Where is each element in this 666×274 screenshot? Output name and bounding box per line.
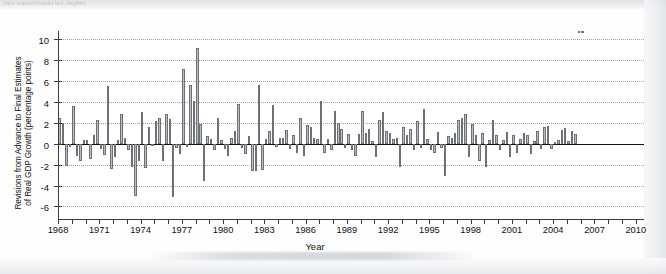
bar (230, 138, 232, 144)
bar (237, 104, 239, 144)
bar (523, 133, 525, 143)
bar (189, 85, 191, 143)
x-axis-tick (319, 220, 320, 224)
x-axis-tick (443, 220, 444, 224)
y-axis-label-line-2: of Real GDP Growth (percentage points) (24, 35, 34, 231)
bar (261, 144, 263, 170)
x-axis-tick (347, 220, 348, 224)
x-axis-tick (457, 220, 458, 224)
bar (574, 134, 576, 143)
bar (371, 141, 373, 144)
bar (564, 128, 566, 144)
y-axis-tick: -6 (54, 206, 62, 207)
bar (306, 125, 308, 144)
bar (120, 114, 122, 144)
bar (162, 144, 164, 161)
bar (444, 144, 446, 176)
scan-header-text: (faint scanned header text, illegible) (3, 0, 303, 7)
x-axis-tick (581, 220, 582, 224)
bar (275, 144, 277, 147)
plot-area: 1086420-2-4-6 (58, 31, 644, 219)
x-axis-tick (526, 220, 527, 224)
y-axis-tick: 0 (54, 144, 62, 145)
x-axis-tick-label: 1995 (419, 225, 440, 235)
bar (354, 144, 356, 157)
x-axis-tick-label: 1983 (254, 225, 275, 235)
bar (96, 120, 98, 144)
bar (203, 144, 205, 182)
bar (248, 136, 250, 143)
x-axis-tick-label: 2004 (543, 225, 564, 235)
x-axis-tick (251, 220, 252, 224)
bar (220, 140, 222, 144)
bar (131, 144, 133, 167)
bar (127, 144, 129, 150)
x-axis-tick (539, 220, 540, 224)
x-axis-tick (141, 220, 142, 224)
bar (282, 138, 284, 144)
x-axis-tick (333, 220, 334, 224)
bar (255, 144, 257, 171)
bar (244, 144, 246, 154)
bar (375, 144, 377, 158)
bar (224, 144, 226, 149)
gridline (58, 81, 644, 82)
bar (172, 144, 174, 197)
bar (213, 144, 215, 150)
bar (265, 139, 267, 144)
bar (110, 144, 112, 169)
x-axis-tick (594, 220, 595, 224)
y-axis-tick-label: 10 (38, 35, 49, 46)
bar (447, 136, 449, 143)
bar (416, 121, 418, 144)
x-axis-tick (471, 220, 472, 224)
bar (337, 123, 339, 144)
bar (107, 86, 109, 143)
bar (547, 126, 549, 144)
x-axis-tick (264, 220, 265, 224)
bar (409, 129, 411, 144)
x-axis-tick (196, 220, 197, 224)
bar (512, 135, 514, 143)
x-axis-tick (58, 220, 59, 224)
y-axis-label-line-1: Revisions from Advance to Final Estimate… (14, 35, 24, 231)
bar (430, 144, 432, 150)
bar (79, 144, 81, 161)
bar (124, 138, 126, 144)
bar (272, 105, 274, 144)
bar (550, 144, 552, 149)
bar (320, 101, 322, 144)
bar (509, 144, 511, 158)
bar (406, 135, 408, 143)
scanned-page: (faint scanned header text, illegible) R… (0, 0, 666, 274)
bar (196, 48, 198, 144)
x-axis-tick (72, 220, 73, 224)
bar (389, 133, 391, 143)
bar (141, 112, 143, 143)
bar (279, 138, 281, 144)
bar (413, 144, 415, 150)
x-axis-tick (127, 220, 128, 224)
bar (557, 140, 559, 144)
y-axis-tick: 4 (54, 102, 62, 103)
gridline (58, 206, 644, 207)
bar (182, 69, 184, 144)
x-axis-tick-label: 1992 (378, 225, 399, 235)
x-axis-tick (388, 220, 389, 224)
bar (210, 139, 212, 144)
y-axis-tick: -2 (54, 165, 62, 166)
bar (392, 139, 394, 144)
x-axis-tick (237, 220, 238, 224)
y-axis-tick: 8 (54, 60, 62, 61)
bar (344, 144, 346, 148)
x-axis-tick (223, 220, 224, 224)
x-axis-line (58, 219, 644, 220)
bar (296, 144, 298, 153)
x-axis-tick-label: 1968 (48, 225, 69, 235)
bar (292, 135, 294, 143)
bar (519, 139, 521, 144)
bar (310, 127, 312, 144)
x-axis-tick-label: 2010 (625, 225, 646, 235)
x-axis-tick (86, 220, 87, 224)
bar (86, 140, 88, 144)
